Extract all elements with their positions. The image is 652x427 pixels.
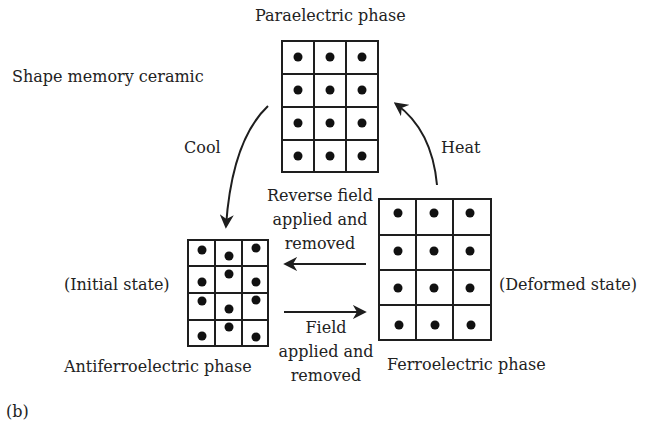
field-label: Field applied and removed xyxy=(266,316,386,388)
ferroelectric-lattice xyxy=(379,199,491,340)
paraelectric-phase-label: Paraelectric phase xyxy=(255,6,405,26)
cool-label: Cool xyxy=(184,138,221,158)
heat-label: Heat xyxy=(441,138,480,158)
figure-label: (b) xyxy=(6,402,29,422)
field-line-1: Field xyxy=(266,316,386,340)
reverse-field-line-3: removed xyxy=(258,232,382,256)
reverse-field-label: Reverse field applied and removed xyxy=(258,184,382,256)
shape-memory-ceramic-diagram: Paraelectric phase Shape memory ceramic … xyxy=(0,0,652,427)
field-line-2: applied and xyxy=(266,340,386,364)
diagram-title: Shape memory ceramic xyxy=(12,67,204,87)
antiferroelectric-phase-label: Antiferroelectric phase xyxy=(64,357,252,377)
initial-state-label: (Initial state) xyxy=(64,275,170,295)
ferroelectric-phase-label: Ferroelectric phase xyxy=(387,355,546,375)
reverse-field-line-1: Reverse field xyxy=(258,184,382,208)
field-line-3: removed xyxy=(266,364,386,388)
reverse-field-line-2: applied and xyxy=(258,208,382,232)
heat-arrow xyxy=(396,104,437,185)
deformed-state-label: (Deformed state) xyxy=(499,275,637,295)
